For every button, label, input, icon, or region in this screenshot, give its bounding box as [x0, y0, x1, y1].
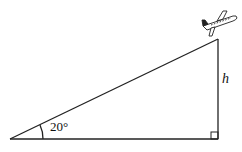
airplane-icon — [202, 11, 237, 36]
angle-label: 20° — [50, 120, 68, 133]
right-triangle — [10, 39, 218, 139]
right-angle-marker — [211, 132, 218, 139]
height-label: h — [222, 72, 229, 86]
triangle-diagram — [0, 0, 242, 152]
hypotenuse — [10, 39, 218, 139]
angle-arc — [40, 125, 43, 139]
